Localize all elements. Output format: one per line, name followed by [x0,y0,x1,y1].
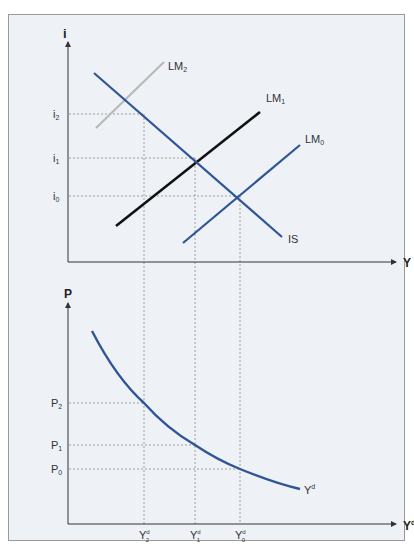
is-lm-panel: i Y i2 i1 i0 LM2 LM1 LM0 IS [53,26,411,524]
is-curve [94,73,282,237]
lm0-label: LM0 [305,133,324,146]
is-lm-ad-diagram: i Y i2 i1 i0 LM2 LM1 LM0 IS P Yd P2 P1 P… [0,0,414,551]
yd-axis-label: Yd [403,519,414,533]
lm1-label: LM1 [266,92,285,105]
tick-y2d: Yd2 [139,529,150,543]
i-axis-label: i [63,26,67,41]
yd-curve [92,331,300,489]
tick-i0: i0 [53,190,59,203]
tick-y1d: Yd1 [190,529,201,543]
i-tick-labels: i2 i1 i0 [53,108,59,203]
y-axis-label: Y [403,256,411,270]
p-axis-label: P [64,287,72,301]
lm1-curve [116,112,260,226]
yd-tick-labels: Yd2 Yd1 Yd0 [139,529,246,543]
curve-labels-top: LM2 LM1 LM0 IS [168,60,324,245]
tick-p2: P2 [51,397,62,410]
tick-i1: i1 [53,152,59,165]
is-label: IS [288,233,298,245]
lm2-curve [96,62,164,128]
tick-p1: P1 [51,439,62,452]
yd-curve-label: Yd [304,483,315,496]
tick-y0d: Yd0 [235,529,246,543]
lm2-label: LM2 [168,60,187,73]
guide-lines-top [69,114,240,524]
tick-i2: i2 [53,108,59,121]
spacer [97,90,190,162]
ad-panel: P Yd P2 P1 P0 Yd2 Yd1 Yd0 Yd [51,287,414,543]
tick-p0: P0 [51,463,62,476]
p-tick-labels: P2 P1 P0 [51,397,62,476]
